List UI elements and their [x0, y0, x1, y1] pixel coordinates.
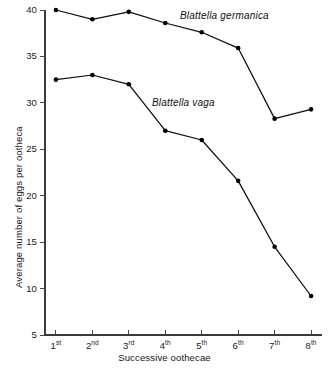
- data-point-marker: [90, 73, 95, 78]
- series-label-blattella-vaga: Blattella vaga: [152, 97, 215, 108]
- data-point-marker: [309, 294, 314, 299]
- y-axis-tick-marks: [40, 10, 45, 335]
- series-line: [56, 75, 311, 296]
- x-axis-tick-label: 1st: [42, 340, 70, 351]
- data-point-marker: [54, 8, 59, 13]
- series-label-blattella-germanica: Blattella germanica: [180, 10, 269, 21]
- data-point-marker: [163, 128, 168, 133]
- x-axis-tick-label: 6th: [224, 340, 252, 351]
- y-axis-tick-label: 5: [11, 329, 37, 340]
- x-axis-title: Successive oothecae: [0, 352, 329, 363]
- chart-series-group: [54, 8, 314, 299]
- data-point-marker: [236, 179, 241, 184]
- data-point-marker: [272, 116, 277, 121]
- chart-axes: [40, 10, 322, 335]
- chart-figure: 510152025303540 1st2nd3rd4th5th6th7th8th…: [0, 0, 329, 371]
- x-axis-tick-label: 7th: [261, 340, 289, 351]
- y-axis-title: Average number of eggs per ootheca: [13, 126, 24, 288]
- x-axis-tick-label: 5th: [188, 340, 216, 351]
- y-axis-tick-label: 35: [11, 50, 37, 61]
- data-point-marker: [127, 82, 132, 87]
- data-point-marker: [199, 138, 204, 143]
- x-axis-tick-label: 3rd: [115, 340, 143, 351]
- data-point-marker: [236, 46, 241, 51]
- data-point-marker: [309, 107, 314, 112]
- data-point-marker: [199, 30, 204, 35]
- data-point-marker: [163, 21, 168, 26]
- line-chart-plot: [0, 0, 329, 371]
- x-axis-tick-marks: [56, 330, 311, 335]
- data-point-marker: [90, 17, 95, 22]
- x-axis-tick-label: 2nd: [78, 340, 106, 351]
- y-axis-tick-label: 40: [11, 4, 37, 15]
- axis-lines: [45, 10, 322, 335]
- x-axis-tick-label: 8th: [297, 340, 325, 351]
- y-axis-tick-label: 30: [11, 97, 37, 108]
- data-point-marker: [272, 244, 277, 249]
- x-axis-tick-label: 4th: [151, 340, 179, 351]
- data-point-marker: [127, 10, 132, 15]
- data-point-marker: [54, 77, 59, 82]
